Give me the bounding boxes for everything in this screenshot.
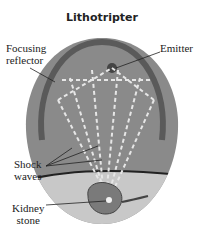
label-line: reflector bbox=[6, 54, 46, 66]
kidney-stone-icon bbox=[106, 197, 112, 203]
label-line: Kidney bbox=[12, 202, 44, 214]
label-line: waves bbox=[14, 170, 42, 182]
label-line: Focusing bbox=[6, 42, 46, 54]
label-kidney-stone: Kidney stone bbox=[12, 202, 44, 226]
label-focusing-reflector: Focusing reflector bbox=[6, 42, 46, 66]
label-line: stone bbox=[12, 214, 44, 226]
label-shock-waves: Shock waves bbox=[14, 158, 42, 182]
label-line: Shock bbox=[14, 158, 42, 170]
label-emitter: Emitter bbox=[160, 42, 193, 54]
lithotripter-illustration bbox=[0, 0, 204, 232]
